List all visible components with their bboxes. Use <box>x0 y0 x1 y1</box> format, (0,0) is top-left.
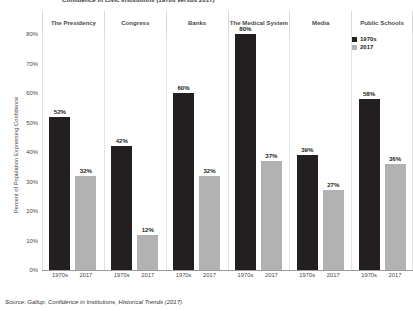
y-axis-tick: 70% <box>26 61 38 67</box>
bar-value-label: 60% <box>164 84 204 91</box>
legend-label: 1970s <box>360 36 377 42</box>
y-axis-label: Percent of Population Expressing Confide… <box>13 55 19 255</box>
category-header: Public Schools <box>351 11 413 34</box>
x-axis-tick-labels: 1970s20171970s20171970s20171970s20171970… <box>42 272 413 284</box>
bar-value-label: 12% <box>128 226 168 233</box>
bar-value-label: 42% <box>102 137 142 144</box>
bar-value-label: 58% <box>349 90 389 97</box>
y-axis-tick: 60% <box>26 90 38 96</box>
y-axis-tick: 30% <box>26 179 38 185</box>
legend-label: 2017 <box>360 44 373 50</box>
bar-value-label: 36% <box>375 155 413 162</box>
legend-item: 1970s <box>352 36 377 42</box>
bar-value-label: 27% <box>313 181 353 188</box>
bar-1970s <box>111 146 132 270</box>
bar-2017 <box>75 176 96 270</box>
bar-2017 <box>137 235 158 270</box>
x-axis-baseline <box>42 270 413 271</box>
bar-1970s <box>359 99 380 270</box>
plot-area: 52%32%42%12%60%32%80%37%39%27%58%36% <box>42 34 413 270</box>
bar-2017 <box>323 190 344 270</box>
x-axis-tick-label: 2017 <box>128 272 168 278</box>
bar-value-label: 52% <box>40 108 80 115</box>
y-axis-tick: 80% <box>26 31 38 37</box>
legend-swatch-icon <box>352 45 357 50</box>
y-axis-tick: 50% <box>26 120 38 126</box>
bar-value-label: 80% <box>225 25 265 32</box>
category-header: Congress <box>104 11 166 34</box>
bar-value-label: 32% <box>66 167 106 174</box>
category-header: Banks <box>166 11 228 34</box>
bar-1970s <box>297 155 318 270</box>
category-header: The Presidency <box>42 11 104 34</box>
page-title: Confidence in Civic Institutions (1970s … <box>62 0 215 3</box>
bar-2017 <box>261 161 282 270</box>
legend-item: 2017 <box>352 44 377 50</box>
x-axis-tick-label: 2017 <box>313 272 353 278</box>
x-axis-tick-label: 2017 <box>375 272 413 278</box>
y-axis-tick: 20% <box>26 208 38 214</box>
bar-2017 <box>385 164 406 270</box>
x-axis-tick-label: 2017 <box>66 272 106 278</box>
bar-2017 <box>199 176 220 270</box>
y-axis-tick: 10% <box>26 238 38 244</box>
y-axis-tick: 40% <box>26 149 38 155</box>
legend: 1970s2017 <box>352 36 377 52</box>
bar-1970s <box>49 117 70 270</box>
bar-value-label: 37% <box>251 152 291 159</box>
legend-swatch-icon <box>352 37 357 42</box>
category-header: Media <box>289 11 351 34</box>
bar-value-label: 39% <box>287 146 327 153</box>
bar-value-label: 32% <box>190 167 230 174</box>
y-axis-tick: 0% <box>29 267 38 273</box>
bar-1970s <box>173 93 194 270</box>
source-note: Source: Gallup. Confidence in Institutio… <box>5 299 184 305</box>
chart-container: Confidence in Civic Institutions (1970s … <box>0 0 413 311</box>
x-axis-tick-label: 2017 <box>190 272 230 278</box>
x-axis-tick-label: 2017 <box>251 272 291 278</box>
chart-title-strip: Confidence in Civic Institutions (1970s … <box>0 0 413 9</box>
y-axis: Percent of Population Expressing Confide… <box>0 34 42 270</box>
